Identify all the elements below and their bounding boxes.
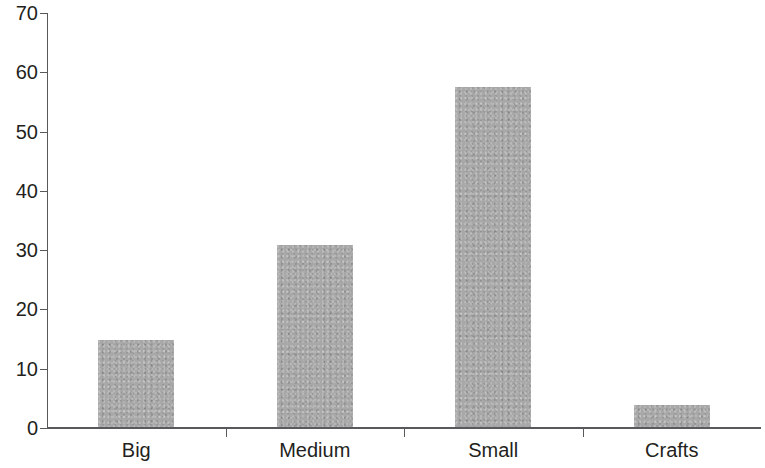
y-axis-tick-label: 60 — [2, 62, 38, 82]
y-axis-tick — [40, 369, 48, 370]
x-axis-tick-label: Crafts — [645, 440, 698, 460]
bar-crafts — [634, 405, 710, 428]
y-axis-line — [47, 13, 48, 428]
x-axis-tick — [226, 428, 227, 437]
y-axis-tick-label: 20 — [2, 299, 38, 319]
y-axis-tick — [40, 309, 48, 310]
y-axis-tick-label: 10 — [2, 359, 38, 379]
y-axis-tick-label: 0 — [2, 418, 38, 438]
y-axis-tick — [40, 13, 48, 14]
bar-medium — [277, 245, 353, 428]
x-axis-tick — [404, 428, 405, 437]
y-axis-tick-label: 50 — [2, 122, 38, 142]
y-axis-tick — [40, 72, 48, 73]
y-axis-tick-label: 30 — [2, 240, 38, 260]
y-axis-tick — [40, 132, 48, 133]
y-axis-tick — [40, 250, 48, 251]
x-axis-tick-label: Big — [122, 440, 151, 460]
bar-chart: 010203040506070 BigMediumSmallCrafts — [0, 0, 765, 468]
y-axis-tick — [40, 191, 48, 192]
bar-small — [455, 87, 531, 428]
x-axis-tick-label: Small — [468, 440, 518, 460]
x-axis-tick — [583, 428, 584, 437]
y-axis-tick-label: 40 — [2, 181, 38, 201]
y-axis-tick-label: 70 — [2, 3, 38, 23]
y-axis-tick — [40, 428, 48, 429]
bar-big — [98, 340, 174, 428]
x-axis-tick-label: Medium — [279, 440, 350, 460]
